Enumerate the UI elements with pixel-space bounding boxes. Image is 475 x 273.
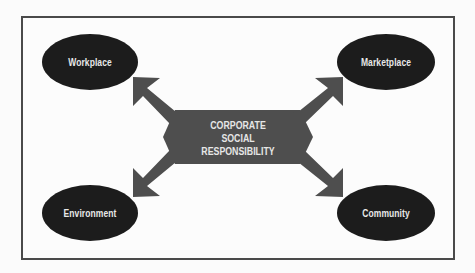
node-environment: Environment — [49, 185, 131, 241]
center-label: CORPORATE SOCIAL RESPONSIBILITY — [190, 113, 287, 163]
node-marketplace-label: Marketplace — [361, 57, 411, 68]
arrow-to-marketplace — [293, 77, 343, 124]
node-workplace-label: Workplace — [68, 57, 112, 68]
arrow-to-workplace — [133, 77, 182, 124]
center-line-2: SOCIAL — [221, 132, 254, 145]
node-workplace: Workplace — [49, 34, 131, 90]
arrow-to-community — [293, 150, 343, 197]
node-community: Community — [344, 185, 427, 241]
node-marketplace: Marketplace — [344, 34, 427, 90]
node-environment-label: Environment — [64, 208, 117, 219]
center-line-3: RESPONSIBILITY — [201, 145, 274, 158]
center-line-1: CORPORATE — [210, 119, 266, 132]
arrow-to-environment — [133, 150, 182, 197]
node-community-label: Community — [362, 208, 410, 219]
